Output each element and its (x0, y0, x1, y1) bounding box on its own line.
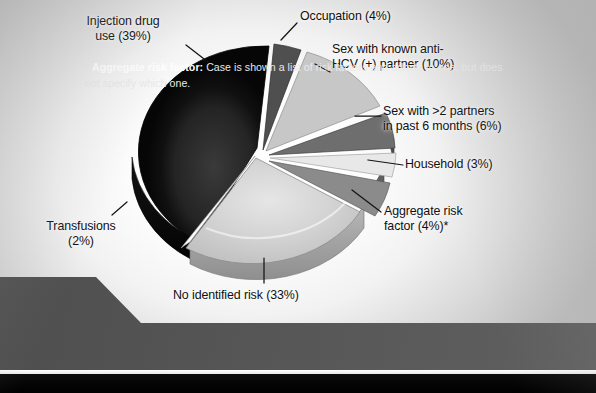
label-occupation: Occupation (4%) (300, 9, 440, 24)
label-no-identified-risk: No identified risk (33%) (173, 288, 393, 303)
footnote-text: * Aggregate risk factor: Case is shown a… (85, 60, 505, 91)
leader-transfusions (112, 202, 127, 215)
footnote-term: Aggregate risk factor: (92, 61, 203, 73)
label-household: Household (3%) (405, 157, 565, 172)
label-transfusions: Transfusions (2%) (26, 219, 136, 248)
label-aggregate-risk: Aggregate risk factor (4%)* (384, 204, 534, 233)
label-injection-drug-use: Injection drug use (39%) (62, 14, 184, 43)
footnote-star: * (85, 62, 89, 73)
slide-canvas: Injection drug use (39%) Occupation (4%)… (0, 0, 596, 393)
bottom-black-band (0, 374, 596, 393)
label-sex-two-partners: Sex with >2 partners in past 6 months (6… (383, 104, 563, 133)
